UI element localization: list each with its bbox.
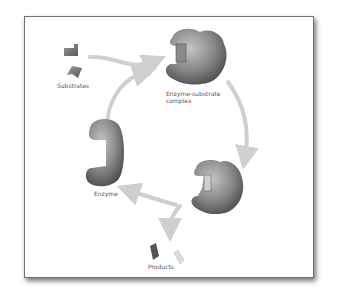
product-icons — [150, 243, 184, 264]
label-complex-line2: complex — [166, 97, 191, 104]
enzyme-product-complex-shape — [192, 160, 244, 214]
enzyme-substrate-complex-shape — [166, 29, 227, 85]
enzyme-cycle-diagram — [0, 0, 343, 298]
label-complex-line1: Enzyme-substrate — [166, 90, 220, 97]
label-enzyme: Enzyme — [94, 190, 118, 197]
label-products: Products — [148, 263, 174, 270]
label-substrates: Substrates — [57, 82, 89, 89]
enzyme-shape — [86, 119, 124, 186]
substrate-icons — [64, 44, 82, 78]
